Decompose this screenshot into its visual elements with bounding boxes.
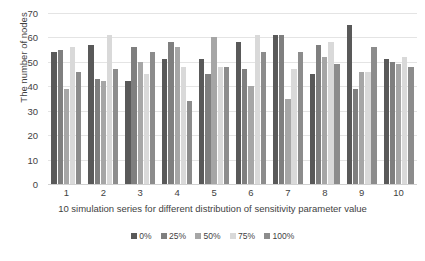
y-axis-tick-label: 20 bbox=[27, 130, 38, 141]
legend-item[interactable]: 100% bbox=[264, 231, 294, 241]
x-axis-tick-label: 4 bbox=[159, 187, 196, 198]
x-axis-tick-label: 5 bbox=[196, 187, 233, 198]
bar-chart: The number of nodes 010203040506070 1234… bbox=[0, 0, 425, 261]
bar bbox=[347, 25, 352, 184]
y-axis-tick-label: 70 bbox=[27, 8, 38, 19]
bar bbox=[242, 69, 247, 184]
bar bbox=[150, 52, 155, 184]
legend-swatch-icon bbox=[230, 233, 236, 239]
bar-group bbox=[122, 13, 159, 184]
bar bbox=[322, 57, 327, 184]
bar bbox=[408, 67, 413, 184]
bar bbox=[199, 59, 204, 184]
bar-group bbox=[48, 13, 85, 184]
y-axis-tick-label: 60 bbox=[27, 32, 38, 43]
y-axis-tick-label: 40 bbox=[27, 81, 38, 92]
y-axis-tick-labels: 010203040506070 bbox=[0, 13, 46, 184]
bar-group bbox=[159, 13, 196, 184]
legend-swatch-icon bbox=[264, 233, 270, 239]
bar bbox=[181, 67, 186, 184]
bar bbox=[138, 62, 143, 184]
bar-group bbox=[343, 13, 380, 184]
legend-label: 25% bbox=[169, 231, 186, 241]
x-axis-tick-label: 10 bbox=[380, 187, 417, 198]
bar-group bbox=[196, 13, 233, 184]
bar bbox=[175, 47, 180, 184]
legend-label: 50% bbox=[204, 231, 221, 241]
y-axis-tick-label: 30 bbox=[27, 105, 38, 116]
legend-item[interactable]: 25% bbox=[161, 231, 187, 241]
bar bbox=[168, 42, 173, 184]
bar-group bbox=[380, 13, 417, 184]
x-axis-title: 10 simulation series for different distr… bbox=[0, 203, 425, 214]
legend-item[interactable]: 75% bbox=[230, 231, 256, 241]
bar bbox=[88, 45, 93, 184]
x-axis-tick-labels: 12345678910 bbox=[48, 187, 417, 198]
plot-area bbox=[48, 13, 417, 184]
bar-group bbox=[233, 13, 270, 184]
bar bbox=[113, 69, 118, 184]
bar bbox=[131, 47, 136, 184]
legend-swatch-icon bbox=[195, 233, 201, 239]
legend: 0%25%50%75%100% bbox=[0, 231, 425, 241]
bar bbox=[64, 89, 69, 184]
bar bbox=[316, 45, 321, 184]
y-axis-tick-label: 0 bbox=[33, 179, 38, 190]
legend-item[interactable]: 50% bbox=[195, 231, 221, 241]
bar bbox=[224, 67, 229, 184]
bar-group bbox=[306, 13, 343, 184]
y-axis-tick-label: 10 bbox=[27, 154, 38, 165]
bar bbox=[365, 72, 370, 184]
bar bbox=[58, 50, 63, 184]
x-axis-tick-label: 9 bbox=[343, 187, 380, 198]
legend-item[interactable]: 0% bbox=[131, 231, 152, 241]
bar bbox=[255, 35, 260, 184]
x-axis-tick-label: 8 bbox=[306, 187, 343, 198]
bar bbox=[218, 67, 223, 184]
bar bbox=[144, 74, 149, 184]
bar bbox=[76, 72, 81, 184]
bar bbox=[371, 47, 376, 184]
legend-swatch-icon bbox=[131, 233, 137, 239]
bar bbox=[359, 72, 364, 184]
bar-group bbox=[269, 13, 306, 184]
bar bbox=[125, 81, 130, 184]
bar bbox=[187, 101, 192, 184]
bar bbox=[285, 99, 290, 185]
legend-label: 100% bbox=[273, 231, 295, 241]
y-axis-tick-label: 50 bbox=[27, 56, 38, 67]
bar bbox=[396, 64, 401, 184]
bar bbox=[95, 79, 100, 184]
x-axis-tick-label: 2 bbox=[85, 187, 122, 198]
x-axis-tick-label: 6 bbox=[233, 187, 270, 198]
x-axis-tick-label: 1 bbox=[48, 187, 85, 198]
bar bbox=[236, 42, 241, 184]
bar bbox=[291, 69, 296, 184]
gridline bbox=[48, 184, 417, 185]
bar bbox=[162, 59, 167, 184]
bar bbox=[205, 74, 210, 184]
bar bbox=[51, 52, 56, 184]
bar-groups bbox=[48, 13, 417, 184]
bar bbox=[384, 59, 389, 184]
bar bbox=[390, 62, 395, 184]
bar bbox=[248, 86, 253, 184]
legend-swatch-icon bbox=[161, 233, 167, 239]
legend-label: 0% bbox=[139, 231, 151, 241]
x-axis-tick-label: 3 bbox=[122, 187, 159, 198]
bar bbox=[70, 47, 75, 184]
bar bbox=[273, 35, 278, 184]
bar-group bbox=[85, 13, 122, 184]
x-axis-tick-label: 7 bbox=[269, 187, 306, 198]
bar bbox=[298, 52, 303, 184]
bar bbox=[310, 74, 315, 184]
bar bbox=[334, 64, 339, 184]
bar bbox=[211, 37, 216, 184]
bar bbox=[353, 89, 358, 184]
bar bbox=[101, 81, 106, 184]
bar bbox=[279, 35, 284, 184]
bar bbox=[107, 35, 112, 184]
bar bbox=[261, 52, 266, 184]
bar bbox=[328, 42, 333, 184]
bar bbox=[402, 57, 407, 184]
